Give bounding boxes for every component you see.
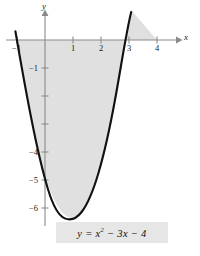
equation-text: y = x2 − 3x − 4 <box>77 226 146 239</box>
equation-lhs: y <box>77 228 82 239</box>
y-tick-label--5: −5 <box>29 176 38 185</box>
y-tick-label--4: −4 <box>29 148 38 157</box>
x-tick-label-1: 1 <box>71 44 75 53</box>
parabola-figure: −1 1 2 3 4 −1 −4 −5 −6 x y y = x2 − 3x −… <box>0 0 200 256</box>
y-tick-label--1: −1 <box>29 64 38 73</box>
x-tick-label-2: 2 <box>99 44 103 53</box>
equation-equals: = <box>85 228 92 239</box>
x-axis-arrowhead <box>176 37 183 44</box>
shaded-region <box>17 10 157 217</box>
y-tick-label--6: −6 <box>29 204 38 213</box>
plot-canvas <box>0 0 200 256</box>
x-axis-label: x <box>184 33 188 42</box>
equation-rhs-rest: − 3x − 4 <box>107 228 147 239</box>
x-tick-label-4: 4 <box>155 44 159 53</box>
y-axis-label: y <box>42 2 46 11</box>
x-tick-label-3: 3 <box>127 44 131 53</box>
equation-box: y = x2 − 3x − 4 <box>56 222 168 243</box>
equation-rhs-exponent: 2 <box>101 226 105 233</box>
x-tick-label--1: −1 <box>12 44 21 53</box>
